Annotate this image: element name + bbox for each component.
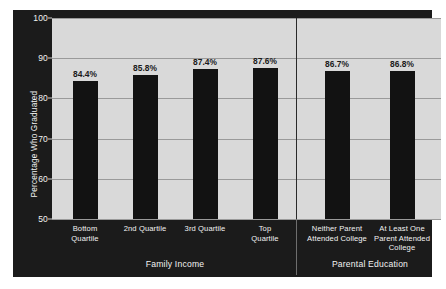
bar-value-label: 86.7% — [325, 59, 349, 69]
bar-value-label: 87.6% — [253, 56, 277, 66]
chart-figure: Percentage Who Graduated 1009080706050 8… — [13, 10, 432, 277]
group-separator — [296, 219, 297, 275]
category-label: 2nd Quartile — [112, 224, 178, 234]
plot-area: 84.4%85.8%87.4%87.6%86.7%86.8% — [52, 18, 441, 219]
bar-value-label: 85.8% — [133, 63, 157, 73]
y-axis-tick-label: 80 — [38, 93, 48, 103]
y-axis-tick-label: 60 — [38, 174, 48, 184]
y-axis-tick-label: 90 — [38, 53, 48, 63]
bar[interactable] — [73, 81, 98, 219]
category-label: Top Quartile — [232, 224, 298, 243]
bar-value-label: 86.8% — [390, 59, 414, 69]
bar[interactable] — [325, 71, 350, 219]
gridline — [52, 179, 441, 180]
y-axis-tick-label: 100 — [33, 13, 48, 23]
bar[interactable] — [253, 68, 278, 219]
group-divider-line — [296, 18, 297, 219]
gridline — [52, 139, 441, 140]
category-label: Bottom Quartile — [52, 224, 118, 243]
bar[interactable] — [390, 71, 415, 219]
group-title: Parental Education — [332, 259, 408, 269]
y-axis: 1009080706050 — [13, 10, 52, 277]
category-label: Neither Parent Attended College — [304, 224, 370, 243]
bar[interactable] — [133, 75, 158, 219]
gridline — [52, 58, 441, 59]
bar-value-label: 87.4% — [193, 57, 217, 67]
category-label: At Least One Parent Attended College — [369, 224, 435, 253]
group-title: Family Income — [146, 259, 204, 269]
y-axis-tick-label: 50 — [38, 214, 48, 224]
category-label: 3rd Quartile — [172, 224, 238, 234]
y-axis-tick-label: 70 — [38, 134, 48, 144]
gridline — [52, 98, 441, 99]
gridline — [52, 18, 441, 19]
bar-value-label: 84.4% — [73, 69, 97, 79]
bar[interactable] — [193, 69, 218, 219]
gridline — [52, 219, 441, 220]
